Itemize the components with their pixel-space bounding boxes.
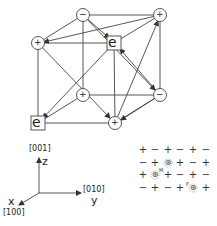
lattice-cell: +	[200, 158, 212, 168]
node-label: e	[32, 115, 41, 129]
node-label: e	[108, 35, 117, 49]
arrow	[38, 43, 110, 118]
lattice-cell: −	[137, 158, 149, 168]
node-label: +	[79, 90, 87, 99]
node-label: +	[156, 10, 164, 19]
lattice-cell: +	[149, 183, 161, 193]
lattice-cell: +	[162, 170, 174, 180]
edge	[114, 43, 115, 123]
lattice-cell: +	[174, 183, 186, 193]
lattice-cell: +	[174, 158, 186, 168]
arrow	[120, 49, 160, 95]
lattice-annotation-f: F	[186, 181, 189, 187]
arrow	[43, 43, 114, 118]
lattice-cell: +	[187, 145, 199, 155]
lattice-cell: +	[200, 183, 212, 193]
lattice-cell: −	[174, 145, 186, 155]
node-label: +	[34, 38, 42, 47]
x-axis	[19, 193, 39, 205]
node-label: −	[79, 10, 87, 19]
lattice-cell: −	[162, 183, 174, 193]
x-axis-label: x	[8, 196, 15, 207]
arrow	[83, 15, 155, 90]
node-label: +	[111, 118, 119, 127]
lattice-cell: −	[174, 170, 186, 180]
lattice-cell: +	[137, 170, 149, 180]
z-index-label: [001]	[29, 145, 51, 153]
y-index-label: [010]	[83, 186, 105, 194]
lattice-cell: +	[187, 170, 199, 180]
z-axis-label: z	[42, 156, 48, 167]
y-axis-label: y	[91, 195, 98, 206]
lattice-cell: −	[149, 145, 161, 155]
lattice-cell-special: ⊛	[162, 159, 174, 167]
node-label: −	[156, 90, 164, 99]
edge	[38, 15, 83, 43]
lattice-cell: +	[137, 145, 149, 155]
lattice-cell: −	[200, 170, 212, 180]
lattice-cell: −	[187, 158, 199, 168]
x-index-label: [100]	[3, 209, 25, 217]
lattice-cell: −	[200, 145, 212, 155]
lattice-cell: +	[162, 145, 174, 155]
lattice-cell: −	[137, 183, 149, 193]
lattice-annotation-m: M	[159, 167, 163, 173]
